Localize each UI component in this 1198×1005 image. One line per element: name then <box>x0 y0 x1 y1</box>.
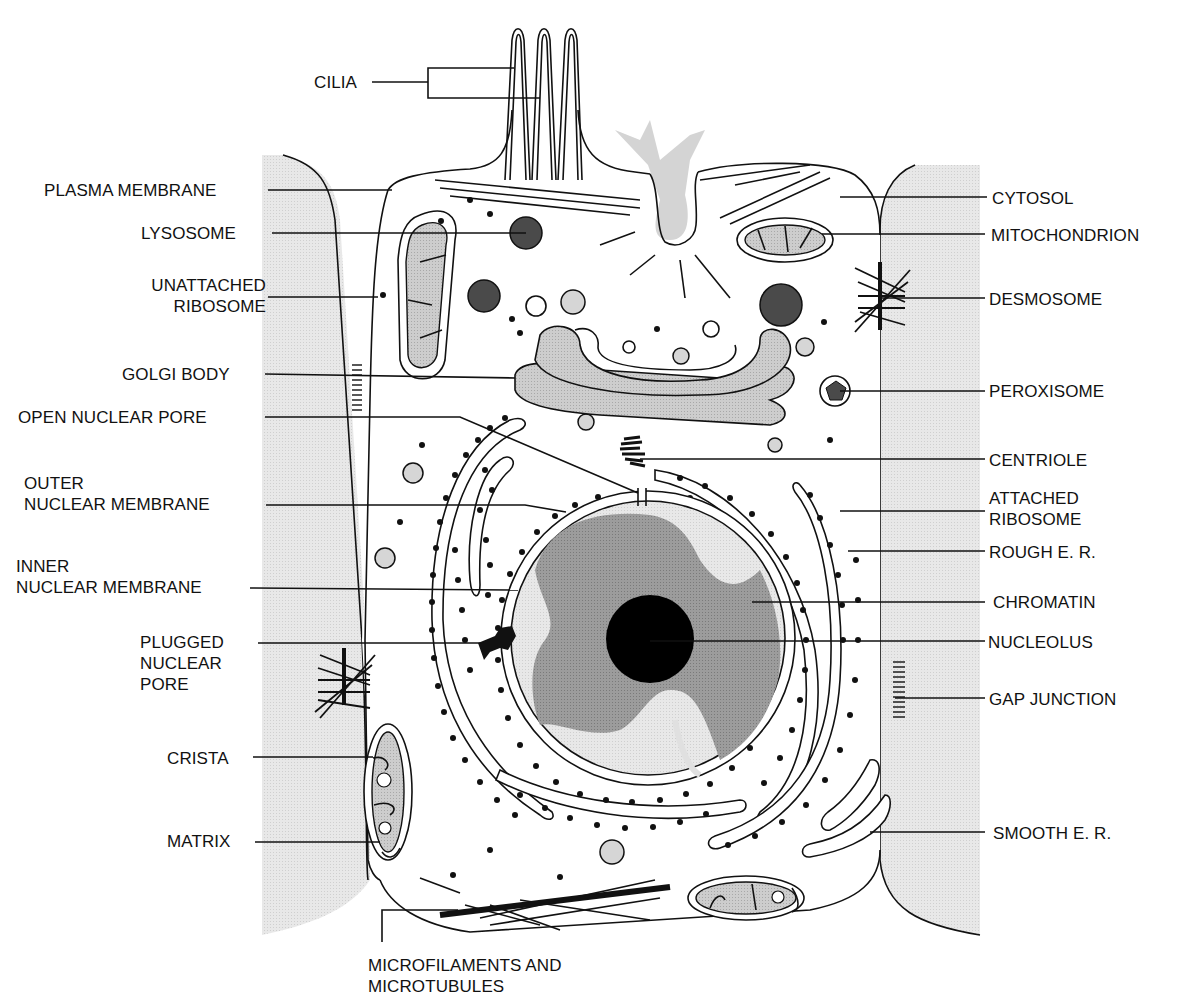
label-inner-line1: INNER <box>16 556 202 577</box>
label-chromatin: CHROMATIN <box>993 592 1096 613</box>
label-unattached-ribosome-line2: RIBOSOME <box>122 296 266 317</box>
label-desmosome: DESMOSOME <box>989 289 1102 310</box>
label-unattached-ribosome: UNATTACHED RIBOSOME <box>122 275 266 317</box>
neighbor-cell-right <box>880 165 980 935</box>
label-gap-junction: GAP JUNCTION <box>989 689 1116 710</box>
label-open-nuclear-pore: OPEN NUCLEAR PORE <box>18 407 207 428</box>
label-plugged-line2: NUCLEAR <box>140 653 224 674</box>
label-peroxisome: PEROXISOME <box>989 381 1104 402</box>
label-microfilaments-line1: MICROFILAMENTS AND <box>368 955 562 976</box>
label-plugged-line3: PORE <box>140 674 224 695</box>
gap-junction-left <box>352 365 362 410</box>
label-attached-ribosome: ATTACHED RIBOSOME <box>989 488 1081 530</box>
label-attached-line2: RIBOSOME <box>989 509 1081 530</box>
label-outer-line1: OUTER <box>24 473 210 494</box>
label-microfilaments-microtubules: MICROFILAMENTS AND MICROTUBULES <box>368 955 562 997</box>
label-nucleolus: NUCLEOLUS <box>988 632 1093 653</box>
label-plugged-line1: PLUGGED <box>140 632 224 653</box>
label-centriole: CENTRIOLE <box>989 450 1087 471</box>
label-outer-nuclear-membrane: OUTER NUCLEAR MEMBRANE <box>24 473 210 515</box>
label-attached-line1: ATTACHED <box>989 488 1081 509</box>
label-golgi-body: GOLGI BODY <box>122 364 230 385</box>
label-mitochondrion: MITOCHONDRION <box>991 225 1139 246</box>
mitochondrion-lower-left <box>364 724 412 860</box>
neighbor-cell-left <box>262 155 370 935</box>
mitochondrion-top <box>737 218 833 262</box>
mitochondrion-bottom <box>688 876 804 920</box>
label-inner-line2: NUCLEAR MEMBRANE <box>16 577 202 598</box>
label-inner-nuclear-membrane: INNER NUCLEAR MEMBRANE <box>16 556 202 598</box>
label-cilia: CILIA <box>314 72 357 93</box>
label-rough-er: ROUGH E. R. <box>989 542 1096 563</box>
label-microfilaments-line2: MICROTUBULES <box>368 976 562 997</box>
label-outer-line2: NUCLEAR MEMBRANE <box>24 494 210 515</box>
label-unattached-ribosome-line1: UNATTACHED <box>122 275 266 296</box>
label-plasma-membrane: PLASMA MEMBRANE <box>44 180 217 201</box>
label-plugged-nuclear-pore: PLUGGED NUCLEAR PORE <box>140 632 224 695</box>
label-smooth-er: SMOOTH E. R. <box>993 823 1111 844</box>
label-matrix: MATRIX <box>167 831 231 852</box>
label-crista: CRISTA <box>167 748 229 769</box>
label-lysosome: LYSOSOME <box>141 223 236 244</box>
label-cytosol: CYTOSOL <box>992 188 1074 209</box>
